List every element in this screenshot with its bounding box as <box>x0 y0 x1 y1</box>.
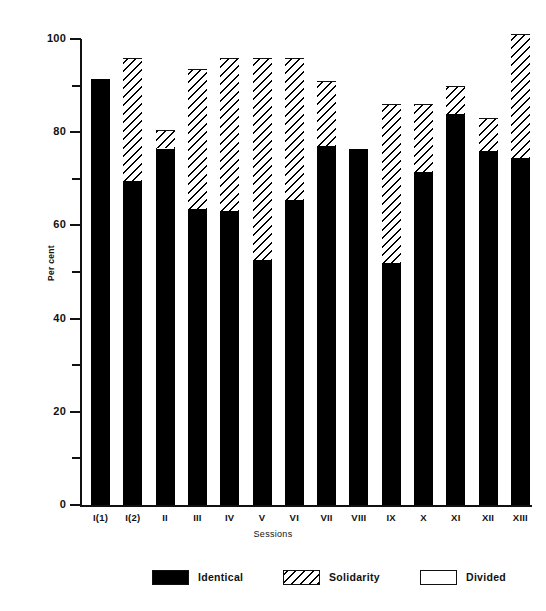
bar-segment-identical <box>479 151 498 505</box>
empty-swatch <box>420 570 457 585</box>
bar-segment-solidarity <box>479 118 498 151</box>
bar-segment-identical <box>285 200 304 505</box>
y-tick-label: 0 <box>32 498 66 510</box>
bar-segment-identical <box>188 209 207 505</box>
y-tick-label: 100 <box>32 32 66 44</box>
bar-segment-identical <box>511 158 530 505</box>
chart-legend: IdenticalSolidarityDivided <box>0 566 546 592</box>
bar-segment-divided <box>285 39 304 58</box>
legend-label: Solidarity <box>329 571 380 583</box>
bar-segment-solidarity <box>511 34 530 157</box>
bar-segment-solidarity <box>446 86 465 114</box>
bar-segment-identical <box>382 263 401 505</box>
y-tick-minor <box>72 457 81 459</box>
bar-segment-solidarity <box>123 58 142 181</box>
bar-column <box>188 39 207 505</box>
bar-segment-identical <box>414 172 433 505</box>
y-tick-minor <box>72 178 81 180</box>
y-tick-major <box>70 224 81 226</box>
bar-column <box>253 39 272 505</box>
bar-segment-identical <box>446 114 465 505</box>
x-tick-label: XIII <box>494 512 546 523</box>
stacked-bar-chart: Per cent 020406080100 I(1)I(2)IIIIIIVVVI… <box>0 0 546 611</box>
bar-segment-divided <box>349 39 368 149</box>
legend-label: Divided <box>466 571 506 583</box>
y-tick-minor <box>72 271 81 273</box>
bar-segment-solidarity <box>188 69 207 209</box>
bar-column <box>349 39 368 505</box>
bar-segment-identical <box>156 149 175 505</box>
y-tick-label: 80 <box>32 125 66 137</box>
bar-segment-identical <box>253 260 272 505</box>
x-axis-line <box>80 505 532 507</box>
legend-label: Identical <box>198 571 243 583</box>
bar-segment-divided <box>317 39 336 81</box>
bar-segment-solidarity <box>317 81 336 146</box>
plot-area <box>82 39 532 505</box>
bar-segment-identical <box>349 149 368 505</box>
bar-column <box>479 39 498 505</box>
bar-segment-divided <box>123 39 142 58</box>
legend-entry: Identical <box>152 566 243 588</box>
bar-segment-divided <box>382 39 401 104</box>
bar-segment-solidarity <box>285 58 304 200</box>
bar-segment-identical <box>91 79 110 505</box>
bar-column <box>446 39 465 505</box>
bar-column <box>382 39 401 505</box>
bar-segment-divided <box>91 39 110 79</box>
hatched-swatch <box>283 570 320 585</box>
bar-column <box>285 39 304 505</box>
y-tick-minor <box>72 364 81 366</box>
bar-column <box>123 39 142 505</box>
bar-column <box>317 39 336 505</box>
bar-segment-solidarity <box>382 104 401 262</box>
legend-entry: Solidarity <box>283 566 380 588</box>
bar-segment-identical <box>317 146 336 505</box>
y-tick-label: 40 <box>32 312 66 324</box>
bar-segment-divided <box>479 39 498 118</box>
y-tick-label: 60 <box>32 218 66 230</box>
bar-column <box>511 39 530 505</box>
bar-segment-divided <box>253 39 272 58</box>
bar-column <box>414 39 433 505</box>
bar-segment-divided <box>220 39 239 58</box>
bar-segment-solidarity <box>156 130 175 149</box>
bar-column <box>156 39 175 505</box>
y-tick-label: 20 <box>32 405 66 417</box>
bar-segment-divided <box>188 39 207 69</box>
y-tick-minor <box>72 85 81 87</box>
bar-segment-divided <box>446 39 465 86</box>
bar-segment-identical <box>123 181 142 505</box>
y-tick-major <box>70 504 81 506</box>
bar-segment-divided <box>156 39 175 130</box>
bar-segment-solidarity <box>220 58 239 212</box>
y-tick-major <box>70 411 81 413</box>
y-tick-major <box>70 131 81 133</box>
bar-column <box>91 39 110 505</box>
legend-entry: Divided <box>420 566 506 588</box>
bar-segment-solidarity <box>253 58 272 261</box>
y-tick-major <box>70 38 81 40</box>
bar-segment-divided <box>414 39 433 104</box>
x-axis-title: Sessions <box>0 529 546 539</box>
bar-segment-identical <box>220 211 239 505</box>
bar-segment-solidarity <box>414 104 433 172</box>
bar-column <box>220 39 239 505</box>
y-tick-major <box>70 318 81 320</box>
y-axis-title: Per cent <box>46 228 56 298</box>
solid-black-swatch <box>152 570 189 585</box>
